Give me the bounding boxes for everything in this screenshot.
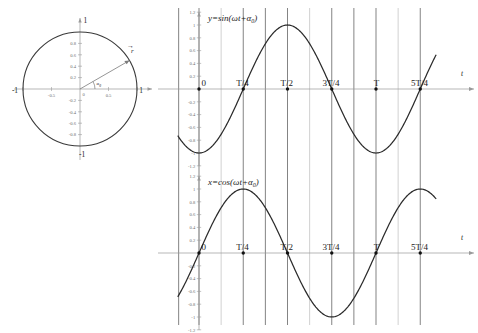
circle-label-top: 1	[84, 16, 88, 25]
y-tick-label: -0.6	[188, 125, 196, 130]
y-tick-label: 0.6	[189, 48, 195, 53]
angle-arc	[93, 82, 95, 90]
cosine-x-tick-labels: 0T/4T/23T/4T5T/4	[202, 242, 429, 252]
marked-point	[242, 87, 245, 90]
marked-point	[242, 251, 245, 254]
circle-y-axis-arrow	[78, 18, 81, 22]
x-tick-label: T	[374, 242, 380, 252]
y-tick-label: 0.2	[189, 74, 195, 79]
y-tick-label: 0.6	[189, 212, 195, 217]
sine-x-axis-arrow	[469, 87, 474, 91]
y-tick-label: -1.2	[188, 164, 196, 169]
physics-phasor-figure: -0.500.50.80.60.40.2-0.2-0.4-0.6-0.8 r →…	[0, 0, 478, 333]
circle-label-right: 1	[139, 86, 143, 95]
sine-x-axis-name: t	[461, 69, 464, 78]
marked-point	[197, 251, 200, 254]
sine-plot-title: y=sin(ωt+α0)	[207, 13, 257, 24]
marked-point	[286, 251, 289, 254]
y-tick-label: 0.2	[189, 238, 195, 243]
cosine-plot: 1.210.80.60.40.2-0.2-0.4-0.6-0.8-1-1.2 0…	[158, 174, 474, 333]
y-tick-label: 1.2	[189, 174, 195, 179]
circle-y-tick-label: -0.2	[69, 98, 77, 103]
y-tick-label: -0.4	[188, 276, 196, 281]
y-tick-label: -1	[191, 315, 196, 320]
y-tick-label: -0.2	[188, 100, 196, 105]
circle-y-tick-label: -0.8	[69, 132, 77, 137]
cosine-plot-title: x=cos(ωt+α0)	[207, 177, 259, 188]
marked-point	[286, 87, 289, 90]
x-tick-label: T/4	[236, 242, 249, 252]
y-tick-label: 0.8	[189, 36, 195, 41]
circle-y-tick-label: 0.2	[70, 75, 76, 80]
x-tick-label: T/4	[236, 78, 249, 88]
y-tick-label: 1.2	[189, 10, 195, 15]
radius-vector	[80, 61, 129, 90]
radius-vector-overbar: →	[127, 42, 134, 50]
y-tick-label: -0.8	[188, 138, 196, 143]
circle-y-tick-label: 0.8	[70, 41, 76, 46]
y-tick-label: 0.8	[189, 200, 195, 205]
circle-label-bottom: -1	[79, 150, 85, 159]
y-tick-label: 0.4	[189, 61, 195, 66]
x-tick-label: T	[374, 78, 380, 88]
marked-point	[330, 87, 333, 90]
marked-point	[330, 251, 333, 254]
marked-point	[374, 251, 377, 254]
sine-plot: 1.210.80.60.40.2-0.2-0.4-0.6-0.8-1-1.2 0…	[158, 10, 474, 169]
circle-x-tick-label: 0	[83, 92, 86, 97]
x-tick-label: 3T/4	[323, 78, 340, 88]
x-tick-label: 0	[202, 78, 207, 88]
radius-arrowhead	[124, 61, 129, 65]
y-tick-label: -1.2	[188, 328, 196, 333]
y-tick-label: -0.4	[188, 112, 196, 117]
circle-x-tick-label: -0.5	[48, 93, 56, 98]
cosine-x-axis-name: t	[461, 233, 464, 242]
x-tick-label: T/2	[281, 78, 294, 88]
sine-y-axis-arrow	[197, 12, 201, 17]
cosine-y-axis-arrow	[197, 176, 201, 181]
x-tick-label: 3T/4	[323, 242, 340, 252]
unit-circle-phasor: -0.500.50.80.60.40.2-0.2-0.4-0.6-0.8 r →…	[12, 16, 152, 160]
marked-point	[419, 251, 422, 254]
cosine-x-axis-arrow	[469, 251, 474, 255]
marked-point	[419, 87, 422, 90]
projection-gridlines	[179, 8, 421, 325]
y-tick-label: 0.4	[189, 225, 195, 230]
circle-y-tick-label: -0.6	[69, 121, 77, 126]
y-tick-label: 1	[193, 187, 196, 192]
circle-y-tick-label: 0.4	[70, 64, 76, 69]
x-tick-label: T/2	[281, 242, 294, 252]
circle-y-tick-label: -0.4	[69, 110, 77, 115]
marked-point	[197, 87, 200, 90]
figure-canvas: -0.500.50.80.60.40.2-0.2-0.4-0.6-0.8 r →…	[0, 0, 478, 333]
y-tick-label: 1	[193, 23, 196, 28]
y-tick-label: -0.8	[188, 302, 196, 307]
x-tick-label: 0	[202, 242, 207, 252]
x-tick-label: 5T/4	[411, 242, 428, 252]
circle-label-left: -1	[12, 86, 18, 95]
circle-x-tick-label: 0.5	[106, 93, 112, 98]
angle-label: α0	[97, 81, 102, 88]
y-tick-label: -0.6	[188, 289, 196, 294]
x-tick-label: 5T/4	[411, 78, 428, 88]
sine-x-tick-labels: 0T/4T/23T/4T5T/4	[202, 78, 429, 88]
circle-x-axis-arrow	[148, 87, 153, 90]
marked-point	[374, 87, 377, 90]
circle-y-tick-label: 0.6	[70, 53, 76, 58]
